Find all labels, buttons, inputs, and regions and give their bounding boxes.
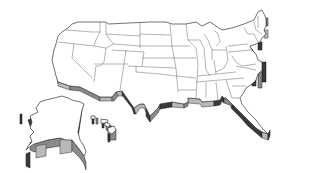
us-map-illustration (0, 0, 312, 173)
hawaii (91, 116, 116, 142)
alaska (20, 96, 86, 170)
us-map-svg (0, 0, 312, 173)
